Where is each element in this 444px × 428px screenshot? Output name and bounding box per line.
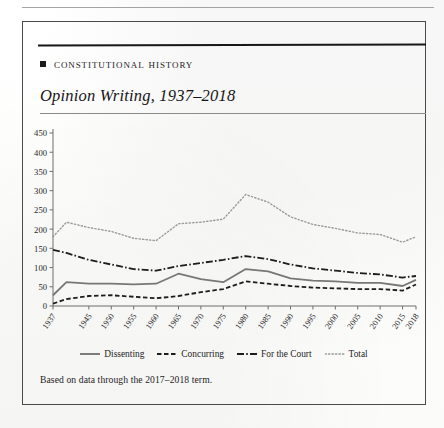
x-axis-tick-label: 1970 bbox=[189, 312, 206, 331]
x-axis-tick-label: 1995 bbox=[301, 312, 318, 331]
figure-source-note: Based on data through the 2017–2018 term… bbox=[40, 374, 212, 385]
series-line-concurring bbox=[53, 281, 416, 303]
legend-item-label: Total bbox=[349, 349, 368, 359]
legend-swatch-icon bbox=[157, 350, 177, 358]
y-axis-tick-label: 100 bbox=[34, 263, 47, 273]
y-axis-tick-label: 150 bbox=[34, 244, 47, 254]
x-axis-tick-label: 1990 bbox=[278, 312, 295, 331]
x-axis-tick-label: 2000 bbox=[323, 312, 340, 331]
y-axis-tick-label: 0 bbox=[43, 301, 47, 311]
x-axis-tick-label: 1965 bbox=[166, 312, 183, 331]
legend-item: Total bbox=[325, 349, 368, 359]
title-rule-thin bbox=[40, 113, 426, 114]
legend-item-label: Dissenting bbox=[104, 349, 144, 359]
line-chart-svg: 0501001502002503003504004501937194519501… bbox=[22, 120, 426, 345]
x-axis-tick-label: 1960 bbox=[144, 312, 161, 331]
page-top-rule bbox=[22, 7, 434, 8]
x-axis-tick-label: 2015 bbox=[390, 312, 407, 331]
y-axis-tick-label: 450 bbox=[34, 128, 47, 138]
y-axis-tick-label: 400 bbox=[34, 148, 47, 158]
x-axis-tick-label: 2018 bbox=[404, 312, 421, 331]
x-axis-tick-label: 1975 bbox=[211, 312, 228, 331]
square-bullet-icon bbox=[40, 61, 46, 67]
x-axis-tick-label: 1985 bbox=[256, 312, 273, 331]
x-axis-tick-label: 2005 bbox=[346, 312, 363, 331]
y-axis-tick-label: 50 bbox=[38, 282, 47, 292]
y-axis-tick-label: 200 bbox=[34, 225, 47, 235]
figure-title: Opinion Writing, 1937–2018 bbox=[40, 86, 235, 106]
legend-swatch-icon bbox=[237, 350, 257, 358]
legend-item-label: For the Court bbox=[261, 349, 312, 359]
series-line-total bbox=[53, 195, 416, 243]
legend-item: For the Court bbox=[237, 349, 312, 359]
x-axis-tick-label: 1955 bbox=[122, 312, 139, 331]
legend-item-label: Concurring bbox=[181, 349, 224, 359]
x-axis-tick-label: 2010 bbox=[368, 312, 385, 331]
section-heading: Constitutional History bbox=[40, 56, 193, 72]
y-axis-tick-label: 250 bbox=[34, 205, 47, 215]
chart-legend: DissentingConcurringFor the CourtTotal bbox=[22, 344, 426, 364]
section-heading-label: Constitutional History bbox=[54, 56, 193, 72]
x-axis-tick-label: 1937 bbox=[41, 312, 58, 331]
y-axis-tick-label: 350 bbox=[34, 167, 47, 177]
legend-item: Concurring bbox=[157, 349, 224, 359]
chart-plot-area: 0501001502002503003504004501937194519501… bbox=[22, 120, 426, 345]
legend-swatch-icon bbox=[325, 350, 345, 358]
x-axis-tick-label: 1980 bbox=[234, 312, 251, 331]
y-axis-tick-label: 300 bbox=[34, 186, 47, 196]
series-line-for-the-court bbox=[53, 250, 416, 278]
x-axis-tick-label: 1945 bbox=[77, 312, 94, 331]
legend-item: Dissenting bbox=[80, 349, 144, 359]
legend-swatch-icon bbox=[80, 350, 100, 358]
x-axis-tick-label: 1950 bbox=[99, 312, 116, 331]
